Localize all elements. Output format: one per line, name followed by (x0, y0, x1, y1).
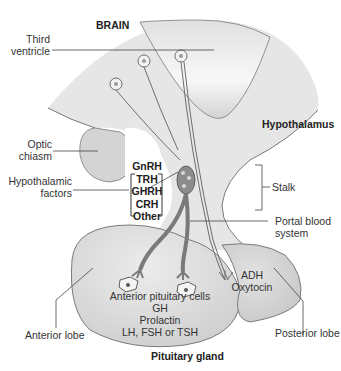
stalk-label: Stalk (272, 181, 295, 193)
portal-blood-system-label-line1: Portal blood (275, 215, 331, 227)
brain-label: BRAIN (96, 19, 129, 31)
pituitary-gland-label: Pituitary gland (151, 350, 224, 362)
hormone-gh: GH (100, 302, 220, 314)
hormone-lh-fsh-tsh: LH, FSH or TSH (100, 326, 220, 338)
factor-crh: CRH (126, 198, 168, 211)
anterior-cells-title: Anterior pituitary cells (100, 290, 220, 302)
portal-blood-system-label: Portal blood system (275, 215, 331, 239)
hormone-prolactin: Prolactin (100, 314, 220, 326)
optic-chiasm-label: Optic chiasm (10, 138, 52, 162)
factor-gnrh: GnRH (126, 160, 168, 173)
anterior-cells-label: Anterior pituitary cells GH Prolactin LH… (100, 290, 220, 338)
hormone-oxytocin: Oxytocin (222, 281, 282, 293)
factor-trh: TRH (126, 173, 168, 186)
optic-chiasm-label-line1: Optic (10, 138, 52, 150)
third-ventricle-label-line1: Third (10, 33, 50, 45)
optic-chiasm-label-line2: chiasm (10, 150, 52, 162)
posterior-lobe-label: Posterior lobe (275, 327, 340, 339)
factor-ghrh: GHRH (126, 185, 168, 198)
hypothalamic-factors-label: Hypothalamic factors (2, 175, 72, 199)
factor-other: Other (126, 210, 168, 223)
hypothalamic-factors-label-line1: Hypothalamic (2, 175, 72, 187)
anterior-lobe-label: Anterior lobe (25, 329, 85, 341)
portal-blood-system-label-line2: system (275, 227, 331, 239)
posterior-hormones-label: ADH Oxytocin (222, 269, 282, 293)
third-ventricle-label: Third ventricle (10, 33, 50, 57)
hormone-adh: ADH (222, 269, 282, 281)
hypothalamic-factors-label-line2: factors (2, 187, 72, 199)
third-ventricle-label-line2: ventricle (10, 45, 50, 57)
factor-list: GnRH TRH GHRH CRH Other (126, 160, 168, 223)
hypothalamus-label: Hypothalamus (262, 118, 334, 130)
